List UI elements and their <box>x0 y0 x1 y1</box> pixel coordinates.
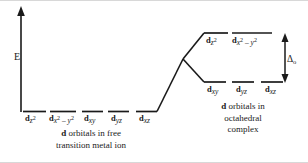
complex-caption-line1: d orbitals in <box>197 101 289 113</box>
orbital-subscript: xy <box>212 87 219 96</box>
orbital-label-t2g-dxy: dxy <box>207 85 218 94</box>
orbital-superscript-2: 2 <box>71 115 74 121</box>
orbital-label-t2g-dyz: dyz <box>236 85 247 94</box>
orbital-label-free-dxz: dxz <box>139 114 150 123</box>
orbital-subscript: xy <box>89 116 96 125</box>
delta-subscript: o <box>293 58 296 65</box>
orbital-superscript: 2 <box>214 37 217 43</box>
complex-caption-line2: octahedral <box>197 113 289 125</box>
energy-axis-label: E <box>14 51 20 62</box>
orbital-label-free-dz2: dz2 <box>25 114 36 123</box>
free-ion-caption-line1: d orbitals in free <box>16 128 166 140</box>
orbital-minus: – <box>60 116 68 125</box>
free-ion-caption-line1-rest: orbitals in free <box>66 128 121 138</box>
complex-caption-line1-rest: orbitals in <box>226 101 265 111</box>
delta-octahedral-label: Δo <box>287 54 296 64</box>
orbital-label-free-dxy: dxy <box>84 114 95 123</box>
correlation-lines <box>157 33 204 112</box>
orbital-label-eg-dz2: dz2 <box>206 36 217 45</box>
free-ion-caption: d orbitals in free transition metal ion <box>16 128 166 151</box>
orbital-minus: – <box>243 38 251 47</box>
orbital-label-t2g-dxz: dxz <box>265 85 276 94</box>
free-ion-caption-line2: transition metal ion <box>16 140 166 152</box>
orbital-label-free-dyz: dyz <box>111 114 122 123</box>
complex-caption: d orbitals in octahedral complex <box>197 101 289 136</box>
orbital-superscript-2: 2 <box>254 37 257 43</box>
orbital-subscript: yz <box>241 87 247 96</box>
orbital-label-free-dx2y2: dx2 – y2 <box>49 114 74 123</box>
crystal-field-splitting-diagram: E Δo dz2 dx2 – y2 dxy dyz dxz dz2 dx2 – … <box>0 0 308 163</box>
orbital-subscript: xz <box>144 116 150 125</box>
complex-caption-line3: complex <box>197 124 289 136</box>
orbital-subscript: xz <box>270 87 276 96</box>
orbital-subscript: yz <box>116 116 122 125</box>
orbital-label-eg-dx2y2: dx2 – y2 <box>232 36 257 45</box>
orbital-superscript: 2 <box>33 115 36 121</box>
